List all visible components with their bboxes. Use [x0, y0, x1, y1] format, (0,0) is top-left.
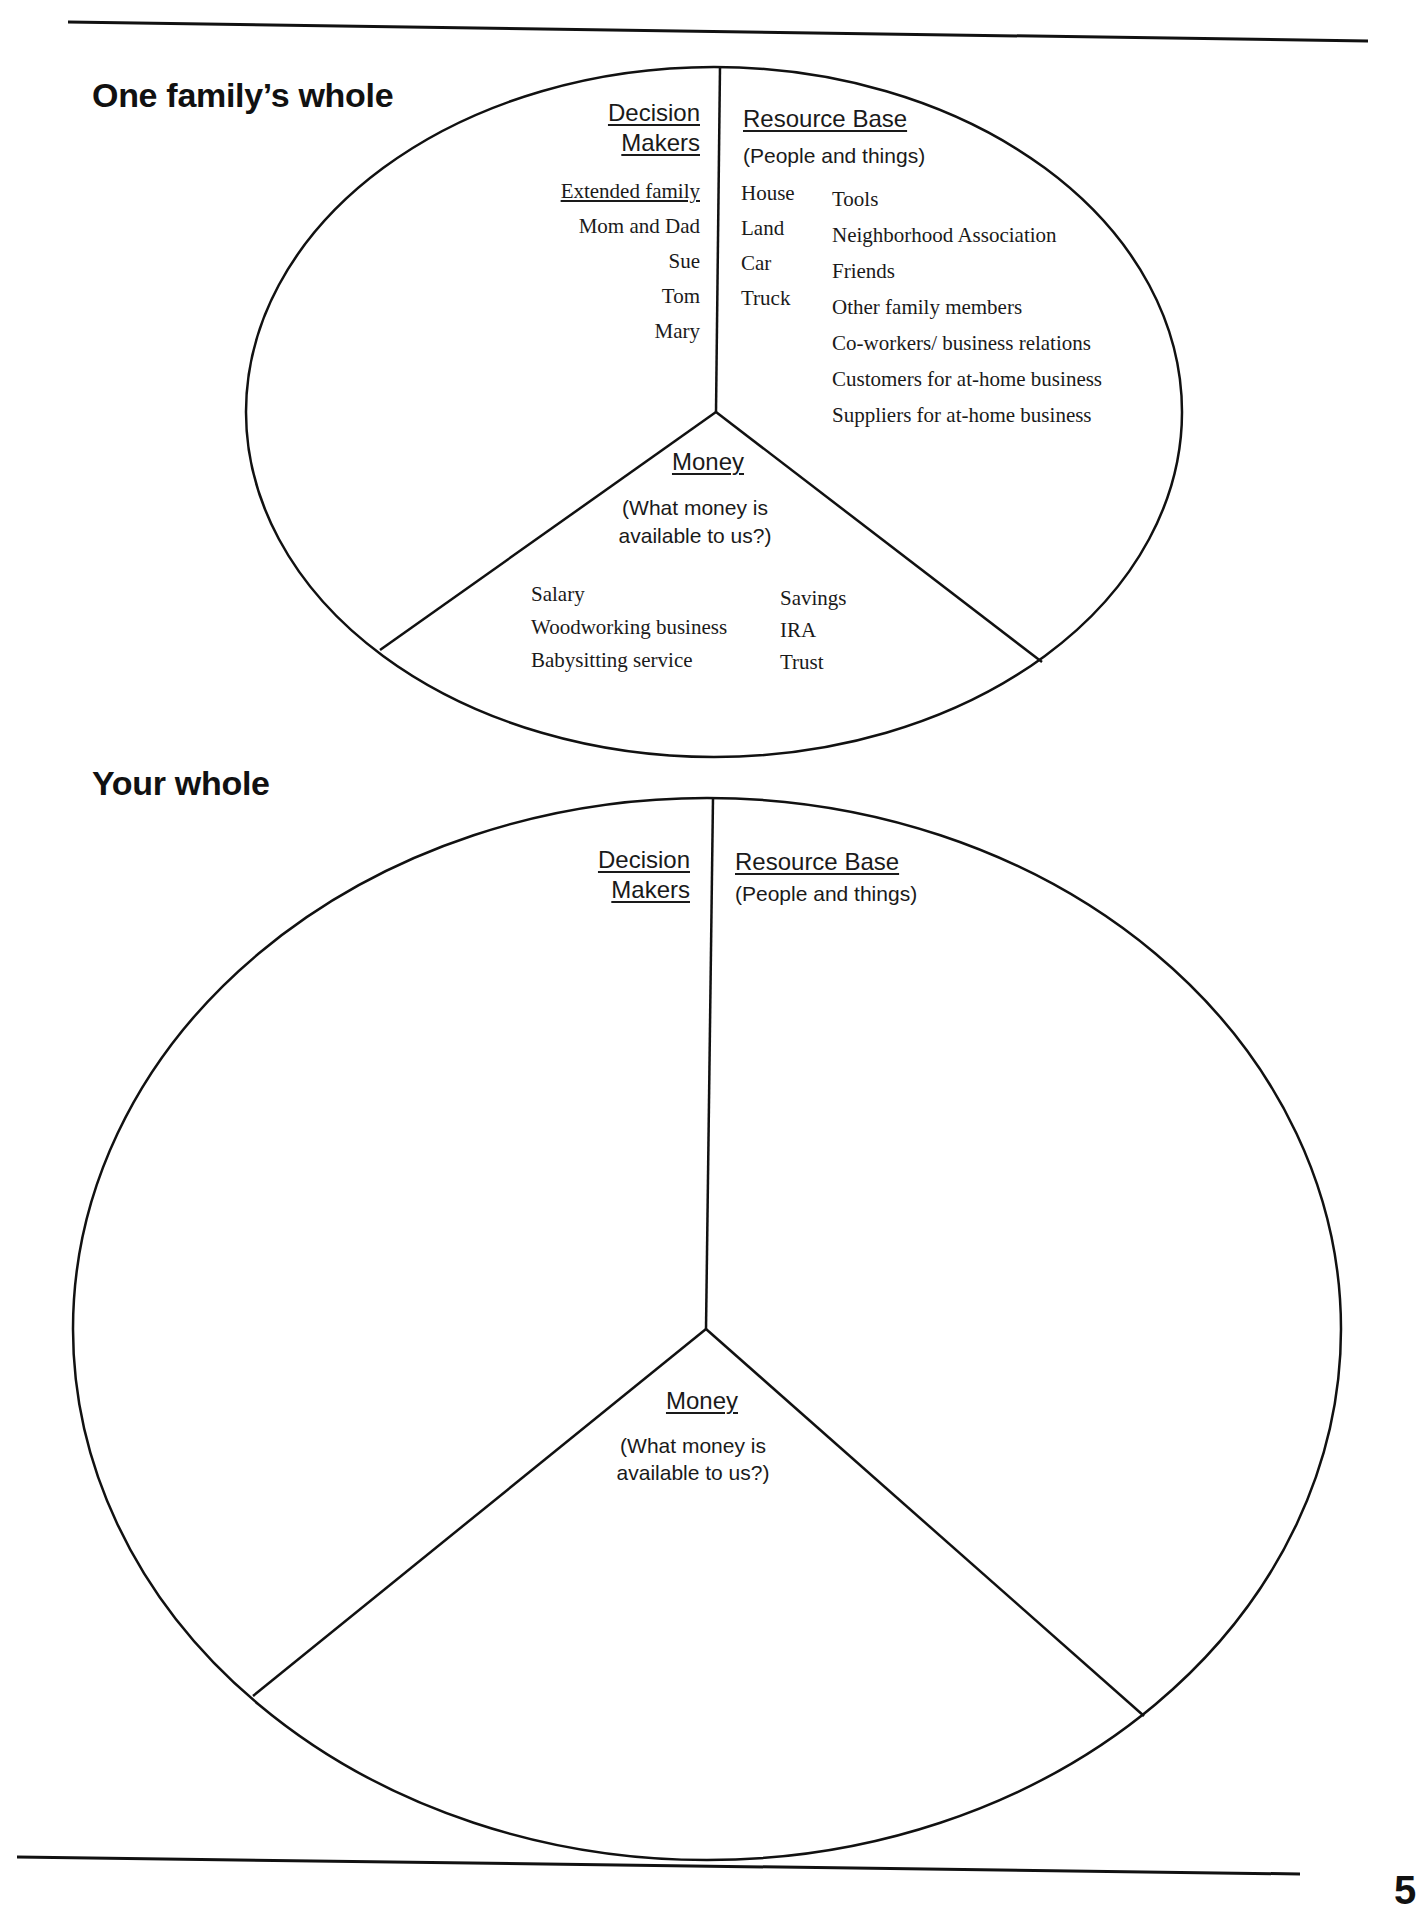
money-asset-item: Savings [780, 582, 847, 614]
example-resource-base-subheading: (People and things) [743, 144, 925, 168]
worksheet-title: Your whole [92, 764, 270, 803]
money-question-line1: (What money is [622, 494, 768, 522]
decision-makers-heading-line1: Decision [608, 98, 700, 128]
example-resource-base-heading: Resource Base [743, 105, 907, 133]
decision-makers-group-label: Extended family [561, 174, 700, 209]
decision-makers-heading-line2: Makers [621, 128, 700, 158]
example-money-income-list: Salary Woodworking business Babysitting … [531, 578, 727, 677]
decision-maker-item: Sue [669, 244, 701, 279]
money-question-line2: available to us?) [617, 1459, 770, 1486]
example-divider-vertical [716, 67, 720, 412]
resource-thing-item: House [741, 176, 795, 211]
worksheet-decision-makers-heading: Decision Makers [510, 845, 690, 905]
resource-people-item: Other family members [832, 289, 1102, 325]
worksheet-resource-base-heading: Resource Base [735, 848, 899, 876]
decision-maker-item: Tom [662, 279, 700, 314]
money-income-item: Salary [531, 578, 727, 611]
decision-makers-heading-line1: Decision [598, 845, 690, 875]
decision-makers-heading-line2: Makers [611, 875, 690, 905]
top-rule [68, 22, 1368, 41]
example-decision-makers-list: Extended family Mom and Dad Sue Tom Mary [460, 174, 700, 349]
resource-thing-item: Truck [741, 281, 795, 316]
page-number: 5 [1394, 1868, 1416, 1908]
worksheet-resource-base-subheading: (People and things) [735, 882, 917, 906]
example-money-question: (What money is available to us?) [580, 494, 810, 550]
example-decision-makers-heading: Decision Makers [520, 98, 700, 158]
resource-thing-item: Car [741, 246, 795, 281]
money-asset-item: Trust [780, 646, 847, 678]
resource-people-item: Friends [832, 253, 1102, 289]
money-income-item: Babysitting service [531, 644, 727, 677]
worksheet-money-heading: Money [602, 1387, 802, 1415]
money-asset-item: IRA [780, 614, 847, 646]
worksheet-decision-makers-area[interactable] [120, 940, 680, 1300]
decision-maker-item: Mom and Dad [579, 209, 700, 244]
example-money-heading: Money [608, 448, 808, 476]
example-title: One family’s whole [92, 76, 393, 115]
resource-people-item: Tools [832, 181, 1102, 217]
money-question-line2: available to us?) [619, 522, 772, 550]
resource-people-item: Neighborhood Association [832, 217, 1102, 253]
resource-people-item: Suppliers for at-home business [832, 397, 1102, 433]
example-resource-people-list: Tools Neighborhood Association Friends O… [832, 181, 1102, 433]
worksheet-divider-vertical [706, 798, 713, 1329]
worksheet-money-question: (What money is available to us?) [578, 1432, 808, 1486]
example-money-assets-list: Savings IRA Trust [780, 582, 847, 678]
worksheet-money-area[interactable] [330, 1500, 1090, 1820]
resource-thing-item: Land [741, 211, 795, 246]
money-question-line1: (What money is [620, 1432, 766, 1459]
money-income-item: Woodworking business [531, 611, 727, 644]
resource-people-item: Co-workers/ business relations [832, 325, 1102, 361]
example-resource-things-list: House Land Car Truck [741, 176, 795, 316]
decision-maker-item: Mary [655, 314, 701, 349]
resource-people-item: Customers for at-home business [832, 361, 1102, 397]
worksheet-resource-base-area[interactable] [730, 930, 1310, 1310]
